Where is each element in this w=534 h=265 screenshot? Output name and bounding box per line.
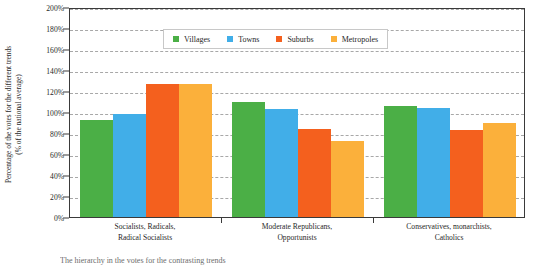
legend-label: Towns xyxy=(238,35,259,44)
x-tick-mark xyxy=(221,218,222,223)
y-tick-label: 100% xyxy=(4,109,64,118)
figure-caption: The hierarchy in the votes for the contr… xyxy=(60,256,480,265)
legend-swatch-icon xyxy=(227,36,233,42)
y-tick-label: 80% xyxy=(4,130,64,139)
y-tick-label: 140% xyxy=(4,67,64,76)
legend-item-towns[interactable]: Towns xyxy=(227,35,259,44)
legend-item-metropoles[interactable]: Metropoles xyxy=(331,35,378,44)
legend-item-suburbs[interactable]: Suburbs xyxy=(276,35,313,44)
bar-group xyxy=(384,9,516,217)
y-tick-label: 160% xyxy=(4,46,64,55)
bar-towns[interactable] xyxy=(265,109,298,217)
x-category-label: Conservatives, monarchists,Catholics xyxy=(373,222,525,243)
y-tick-label: 120% xyxy=(4,88,64,97)
bar-suburbs[interactable] xyxy=(450,130,483,217)
y-tick-label: 60% xyxy=(4,151,64,160)
bar-villages[interactable] xyxy=(232,102,265,218)
y-tick-label: 40% xyxy=(4,172,64,181)
x-category-line: Moderate Republicans, xyxy=(221,222,373,233)
bar-towns[interactable] xyxy=(417,108,450,217)
x-category-label: Socialists, Radicals,Radical Socialists xyxy=(69,222,221,243)
chart-legend: VillagesTownsSuburbsMetropoles xyxy=(163,29,388,49)
x-category-line: Opportunists xyxy=(221,233,373,244)
legend-label: Villages xyxy=(184,35,210,44)
x-category-line: Radical Socialists xyxy=(69,233,221,244)
legend-item-villages[interactable]: Villages xyxy=(173,35,210,44)
legend-swatch-icon xyxy=(331,36,337,42)
x-category-label: Moderate Republicans,Opportunists xyxy=(221,222,373,243)
bar-villages[interactable] xyxy=(384,106,417,217)
x-tick-mark xyxy=(373,218,374,223)
x-category-line: Conservatives, monarchists, xyxy=(373,222,525,233)
bar-metropoles[interactable] xyxy=(483,123,516,218)
bar-suburbs[interactable] xyxy=(146,84,179,217)
legend-swatch-icon xyxy=(276,36,282,42)
bar-towns[interactable] xyxy=(113,114,146,217)
y-tick-label: 20% xyxy=(4,193,64,202)
bar-metropoles[interactable] xyxy=(331,141,364,217)
chart-figure: Percentage of the votes for the differen… xyxy=(0,0,534,265)
x-category-line: Socialists, Radicals, xyxy=(69,222,221,233)
y-tick-label: 180% xyxy=(4,25,64,34)
x-category-line: Catholics xyxy=(373,233,525,244)
y-tick-label: 200% xyxy=(4,4,64,13)
y-tick-label: 0% xyxy=(4,214,64,223)
bar-villages[interactable] xyxy=(80,120,113,217)
bar-metropoles[interactable] xyxy=(179,84,212,217)
legend-label: Metropoles xyxy=(342,35,378,44)
legend-swatch-icon xyxy=(173,36,179,42)
legend-label: Suburbs xyxy=(287,35,313,44)
bar-suburbs[interactable] xyxy=(298,129,331,217)
